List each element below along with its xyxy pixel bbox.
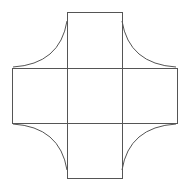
- diagram-canvas: [0, 0, 191, 189]
- squares-group: [13, 13, 178, 179]
- arc-bottom-right: [122, 124, 176, 170]
- arc-top-left: [13, 21, 67, 67]
- arcs-group: [13, 21, 176, 170]
- square-left: [13, 69, 68, 124]
- square-bottom: [68, 124, 123, 179]
- arc-bottom-left: [13, 124, 67, 170]
- square-top: [68, 13, 123, 69]
- square-center: [68, 69, 123, 124]
- arc-top-right: [122, 21, 176, 67]
- square-right: [123, 69, 178, 124]
- cross-net-diagram: [0, 0, 191, 189]
